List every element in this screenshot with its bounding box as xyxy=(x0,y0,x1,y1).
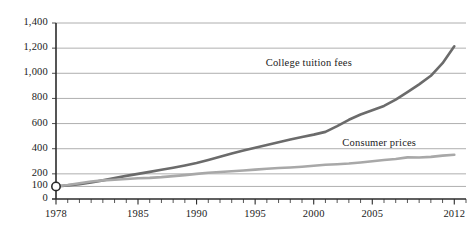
chart-plot-area xyxy=(0,0,473,239)
series-line-consumer-prices xyxy=(56,155,454,187)
y-axis-tick-label: 600 xyxy=(32,117,48,128)
x-axis-tick-label: 2005 xyxy=(347,208,397,219)
y-axis-tick-label: 1,400 xyxy=(23,16,48,27)
y-axis-tick-label: 100 xyxy=(32,179,48,190)
series-label-consumer-prices: Consumer prices xyxy=(342,137,416,148)
series-label-college-tuition-fees: College tuition fees xyxy=(266,57,352,68)
x-axis-tick-label: 2000 xyxy=(289,208,339,219)
chart-container: 01002004006008001,0001,2001,400197819851… xyxy=(0,0,473,239)
y-axis-tick-label: 1,200 xyxy=(23,41,48,52)
y-axis-tick-label: 0 xyxy=(43,192,48,203)
x-axis-tick-label: 1978 xyxy=(31,208,81,219)
x-axis-tick-label: 1985 xyxy=(113,208,163,219)
x-axis-tick-label: 2012 xyxy=(429,208,473,219)
y-axis-tick-label: 1,000 xyxy=(23,66,48,77)
y-axis-tick-label: 800 xyxy=(32,91,48,102)
x-axis-tick-label: 1995 xyxy=(230,208,280,219)
origin-marker-icon xyxy=(52,182,60,190)
x-axis-tick-label: 1990 xyxy=(172,208,222,219)
y-axis-tick-label: 400 xyxy=(32,142,48,153)
y-axis-tick-label: 200 xyxy=(32,167,48,178)
series-line-college-tuition-fees xyxy=(56,46,454,186)
